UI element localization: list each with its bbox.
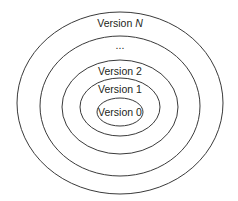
label-version-n-var: N (135, 17, 143, 29)
label-ellipsis: ... (116, 39, 125, 51)
nested-versions-diagram: Version N ... Version 2 Version 1 Versio… (0, 0, 238, 201)
label-version-2: Version 2 (98, 65, 142, 77)
label-version-n: Version N (97, 17, 143, 29)
label-version-n-prefix: Version (97, 17, 135, 29)
label-version-1: Version 1 (98, 83, 142, 95)
label-version-0: Version 0 (98, 106, 142, 118)
